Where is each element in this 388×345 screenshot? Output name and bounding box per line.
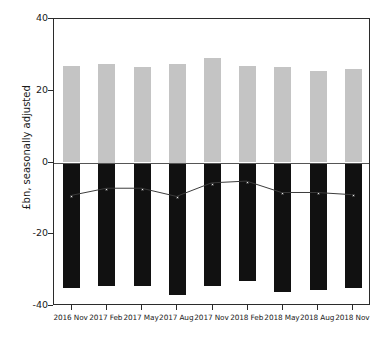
balance-marker xyxy=(246,181,249,184)
x-tick-mark xyxy=(247,305,248,310)
y-axis-title: £bn, seasonally adjusted xyxy=(21,48,32,248)
y-tick-mark xyxy=(48,305,53,306)
plot-area xyxy=(53,18,370,305)
balance-marker xyxy=(211,183,214,186)
x-tick-mark xyxy=(317,305,318,310)
x-tick-mark xyxy=(106,305,107,310)
x-tick-label: 2018 Nov xyxy=(327,313,377,322)
x-tick-mark xyxy=(282,305,283,310)
balance-marker xyxy=(317,192,320,195)
x-tick-mark xyxy=(176,305,177,310)
x-tick-mark xyxy=(212,305,213,310)
balance-marker xyxy=(105,188,108,191)
x-tick-mark xyxy=(352,305,353,310)
balance-marker xyxy=(70,195,73,198)
balance-marker xyxy=(176,196,179,199)
x-tick-mark xyxy=(71,305,72,310)
x-tick-mark xyxy=(141,305,142,310)
chart-container: 40200-20-40 £bn, seasonally adjusted 201… xyxy=(0,0,388,345)
balance-marker xyxy=(352,194,355,197)
y-tick-label: 40 xyxy=(14,13,48,23)
balance-marker xyxy=(281,192,284,195)
balance-marker xyxy=(141,188,144,191)
balance-markers-layer xyxy=(54,19,369,304)
y-tick-label: -40 xyxy=(14,300,48,310)
